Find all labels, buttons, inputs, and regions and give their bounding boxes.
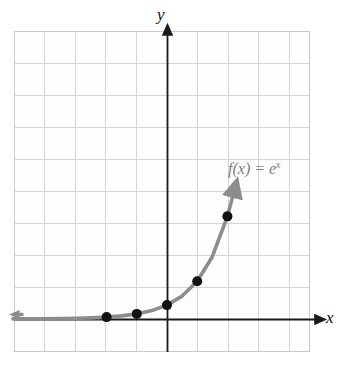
data-point — [222, 211, 232, 221]
exponential-function-graph: y x f(x) = ex — [0, 0, 344, 370]
function-label-base: f(x) = e — [228, 160, 276, 177]
y-axis-label: y — [157, 6, 165, 23]
data-point — [192, 276, 202, 286]
function-label: f(x) = ex — [228, 160, 281, 177]
function-label-exponent: x — [276, 159, 280, 170]
data-point — [162, 300, 172, 310]
data-point — [132, 309, 142, 319]
x-axis-label: x — [326, 309, 334, 326]
graph-canvas — [0, 0, 344, 370]
data-point — [102, 312, 112, 322]
